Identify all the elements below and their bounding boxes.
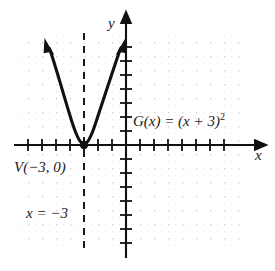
graph-figure: y x G(x) = (x + 3)2 V(−3, 0) x = −3 (0, 0, 275, 271)
function-label: G(x) = (x + 3)2 (133, 111, 225, 130)
svg-text:G(x) = (x + 3)2: G(x) = (x + 3)2 (133, 111, 225, 130)
function-label-exponent: 2 (220, 111, 225, 122)
x-axis-label: x (254, 147, 262, 163)
y-axis-label: y (106, 15, 115, 31)
coordinate-plane-svg: y x G(x) = (x + 3)2 V(−3, 0) x = −3 (0, 0, 275, 271)
vertex-label: V(−3, 0) (14, 159, 66, 176)
axis-of-symmetry-label: x = −3 (25, 205, 68, 221)
vertex-point (80, 141, 88, 149)
function-label-text: G(x) = (x + 3) (133, 113, 220, 130)
